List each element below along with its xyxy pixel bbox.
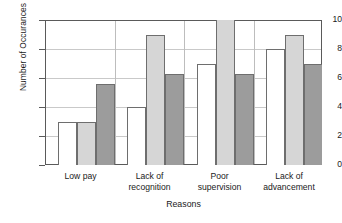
x-label-lack-of-advancement: Lack of advancement xyxy=(250,171,328,192)
x-axis-title: Reasons xyxy=(45,199,322,209)
bar-low-pay-series-2 xyxy=(77,122,96,166)
bar-low-pay-series-1 xyxy=(58,122,77,166)
bar-lack-of-recognition-series-1 xyxy=(127,107,146,165)
bar-poor-supervision-series-3 xyxy=(235,74,254,165)
x-label-poor-supervision: Poor supervision xyxy=(182,171,257,192)
x-label-lack-of-recognition: Lack of recognition xyxy=(112,171,187,192)
bar-lack-of-advancement-series-3 xyxy=(304,64,322,166)
x-label-poor-supervision-line-1: Poor xyxy=(182,171,257,182)
bar-chart: Number of Occurances 10 8 6 4 2 0 Low pa… xyxy=(0,0,342,223)
x-label-lack-of-advancement-line-2: advancement xyxy=(250,182,328,193)
bar-poor-supervision-series-1 xyxy=(197,64,216,166)
x-label-lack-of-advancement-line-1: Lack of xyxy=(250,171,328,182)
bar-lack-of-advancement-series-1 xyxy=(266,49,285,165)
x-label-lack-of-recognition-line-1: Lack of xyxy=(112,171,187,182)
bar-poor-supervision-series-2 xyxy=(216,20,235,165)
x-label-lack-of-recognition-line-2: recognition xyxy=(112,182,187,193)
y-axis-title: Number of Occurances xyxy=(18,0,28,117)
bar-lack-of-recognition-series-2 xyxy=(146,35,165,166)
bars-layer xyxy=(45,20,322,165)
x-label-low-pay-line-1: Low pay xyxy=(43,171,118,182)
bar-lack-of-advancement-series-2 xyxy=(285,35,304,166)
x-label-poor-supervision-line-2: supervision xyxy=(182,182,257,193)
y-tick-mark-0 xyxy=(39,165,45,166)
bar-lack-of-recognition-series-3 xyxy=(165,74,184,165)
bar-low-pay-series-3 xyxy=(96,84,115,165)
x-label-low-pay: Low pay xyxy=(43,171,118,182)
